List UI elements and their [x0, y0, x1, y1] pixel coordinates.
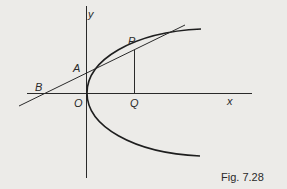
figure: y x O A B P Q Fig. 7.28: [0, 0, 287, 189]
x-axis-label: x: [226, 95, 233, 107]
point-b-label: B: [35, 81, 42, 93]
parabola-diagram: y x O A B P Q Fig. 7.28: [0, 0, 287, 189]
figure-caption: Fig. 7.28: [221, 171, 264, 183]
parabola: [87, 29, 201, 156]
point-q-label: Q: [130, 97, 139, 109]
point-a-label: A: [72, 62, 80, 74]
y-axis-label: y: [87, 8, 95, 20]
origin-label: O: [74, 97, 83, 109]
parabola-curve: [87, 29, 201, 156]
point-p-label: P: [128, 35, 136, 47]
